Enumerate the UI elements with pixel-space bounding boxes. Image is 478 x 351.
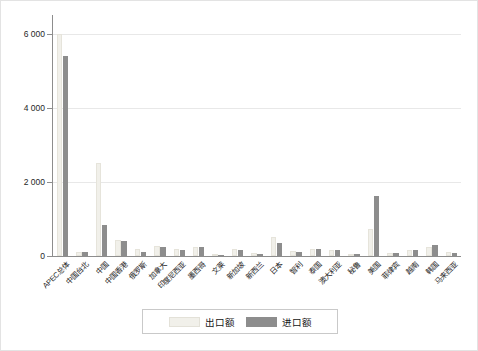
x-axis-label: 墨西哥 <box>184 259 206 281</box>
bar-export <box>57 34 62 256</box>
legend-label: 进口额 <box>282 315 312 329</box>
bar-group <box>189 19 208 256</box>
bar-export <box>368 229 373 256</box>
bar-group <box>228 19 247 256</box>
bar-export <box>193 247 198 256</box>
bar-import <box>432 245 437 256</box>
y-tick-label: 0 <box>1 251 45 261</box>
bar-import <box>296 252 301 256</box>
bar-group <box>72 19 91 256</box>
x-axis-label: 智利 <box>286 259 303 276</box>
bar-export <box>115 240 120 256</box>
bar-group <box>422 19 441 256</box>
bar-group <box>267 19 286 256</box>
bar-export <box>407 250 412 256</box>
bar-import <box>63 56 68 256</box>
bar-import <box>180 250 185 256</box>
bar-group <box>364 19 383 256</box>
x-axis-label: 新加坡 <box>223 259 245 281</box>
bar-group <box>286 19 305 256</box>
x-axis-label: 俄罗斯 <box>126 259 148 281</box>
chart-legend: 出口额进口额 <box>142 309 338 334</box>
x-axis-label: 越南 <box>403 259 420 276</box>
bar-import <box>277 243 282 256</box>
bar-export <box>387 253 392 256</box>
bar-group <box>247 19 266 256</box>
bar-group <box>208 19 227 256</box>
x-axis-label: 新西兰 <box>243 259 265 281</box>
bar-group <box>111 19 130 256</box>
bar-export <box>96 163 101 256</box>
bar-export <box>174 249 179 256</box>
bar-group <box>306 19 325 256</box>
bar-import <box>199 247 204 256</box>
y-tick-label: 6 000 <box>1 29 45 39</box>
bar-group <box>442 19 461 256</box>
legend-entry[interactable]: 出口额 <box>169 315 235 329</box>
legend-swatch-export <box>169 317 200 327</box>
x-axis-label: 日本 <box>267 259 284 276</box>
bar-group <box>92 19 111 256</box>
bar-group <box>344 19 363 256</box>
bar-export <box>271 237 276 256</box>
bar-export <box>154 246 159 256</box>
bar-import <box>413 250 418 256</box>
bar-import <box>316 249 321 256</box>
bar-export <box>329 250 334 256</box>
bar-export <box>232 249 237 256</box>
bar-import <box>354 254 359 256</box>
bar-import <box>102 225 107 256</box>
legend-entry[interactable]: 进口额 <box>246 315 312 329</box>
y-tick-label: 2 000 <box>1 177 45 187</box>
bar-import <box>218 255 223 256</box>
bar-export <box>212 254 217 256</box>
bar-import <box>374 196 379 256</box>
bar-group <box>403 19 422 256</box>
bar-group <box>170 19 189 256</box>
bar-group <box>150 19 169 256</box>
bar-group <box>131 19 150 256</box>
bar-group <box>325 19 344 256</box>
y-tick-mark <box>47 256 53 257</box>
bar-group <box>383 19 402 256</box>
bar-export <box>76 252 81 256</box>
x-axis-label: 秘鲁 <box>345 259 362 276</box>
bar-export <box>446 252 451 256</box>
x-axis-line <box>53 256 461 257</box>
legend-label: 出口额 <box>205 315 235 329</box>
bar-export <box>426 247 431 256</box>
plot-area <box>53 19 461 256</box>
bar-import <box>393 253 398 256</box>
bar-import <box>82 252 87 256</box>
bar-export <box>290 251 295 256</box>
bar-group <box>53 19 72 256</box>
bar-import <box>257 254 262 256</box>
bar-export <box>348 254 353 256</box>
bar-import <box>141 252 146 256</box>
bar-import <box>335 250 340 256</box>
x-axis-label: 菲律宾 <box>379 259 401 281</box>
bar-import <box>160 247 165 256</box>
y-tick-label: 4 000 <box>1 103 45 113</box>
bar-export <box>135 249 140 256</box>
bar-import <box>121 241 126 256</box>
bar-import <box>238 250 243 256</box>
bar-export <box>310 249 315 256</box>
chart-figure: 02 0004 0006 000 APEC总体中国台北中国中国香港俄罗斯加拿大印… <box>0 0 478 351</box>
bar-export <box>251 253 256 256</box>
bar-import <box>452 253 457 256</box>
legend-swatch-import <box>246 317 277 327</box>
